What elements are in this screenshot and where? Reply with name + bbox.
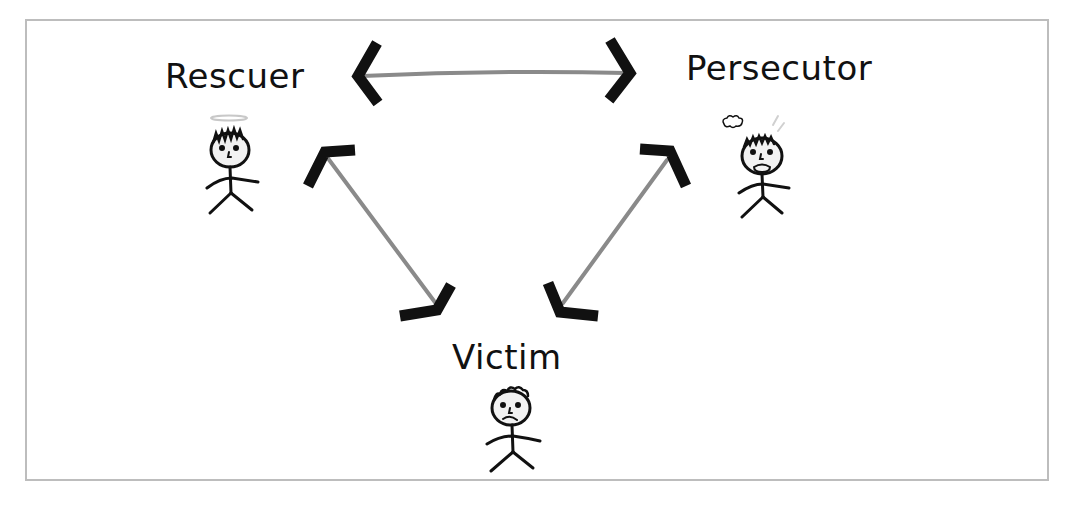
arrow-rescuer-victim (308, 150, 451, 316)
arrowhead-right-icon (609, 40, 630, 100)
victim-label: Victim (452, 337, 562, 377)
rescuer-figure-icon (207, 116, 258, 214)
arrowhead-left-icon (358, 43, 378, 103)
arrow-persecutor-victim (548, 149, 686, 316)
victim-figure-icon (487, 387, 540, 471)
drama-triangle-diagram: Rescuer Persecutor Victim (0, 0, 1078, 507)
steam-cloud-icon (723, 116, 743, 128)
halo-icon (211, 116, 247, 121)
arrowhead-up-left-icon (308, 150, 355, 186)
rescuer-label: Rescuer (165, 56, 304, 96)
persecutor-figure-icon (723, 116, 789, 217)
arrow-rescuer-persecutor (358, 40, 630, 103)
persecutor-label: Persecutor (686, 48, 872, 88)
